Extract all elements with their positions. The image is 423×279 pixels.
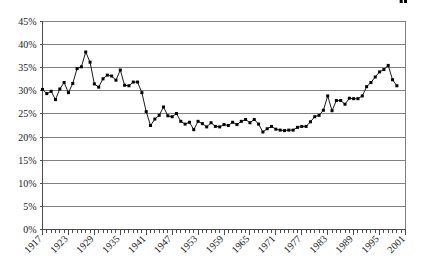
data-point-marker <box>223 123 226 126</box>
data-point-marker <box>356 97 359 100</box>
y-axis-tick-label: 5% <box>23 201 36 212</box>
data-point-marker <box>110 75 113 78</box>
data-point-marker <box>266 127 269 130</box>
data-point-marker <box>162 106 165 109</box>
data-point-marker <box>287 129 290 132</box>
y-axis-tick-label: 40% <box>18 39 36 50</box>
data-point-marker <box>80 65 83 68</box>
data-point-marker <box>326 94 329 97</box>
data-point-marker <box>140 91 143 94</box>
data-point-marker <box>67 91 70 94</box>
data-point-marker <box>292 129 295 132</box>
data-point-marker <box>76 67 79 70</box>
data-point-marker <box>197 120 200 123</box>
y-axis-tick-label: 30% <box>18 85 36 96</box>
y-axis-tick-label: 35% <box>18 62 36 73</box>
data-point-marker <box>41 88 44 91</box>
data-point-marker <box>279 129 282 132</box>
data-point-marker <box>335 99 338 102</box>
data-point-marker <box>387 64 390 67</box>
data-point-marker <box>261 130 264 133</box>
data-point-marker <box>313 115 316 118</box>
data-point-marker <box>97 86 100 89</box>
data-point-marker <box>374 75 377 78</box>
data-point-marker <box>378 70 381 73</box>
data-point-marker <box>192 128 195 131</box>
data-point-marker <box>123 84 126 87</box>
data-point-marker <box>45 92 48 95</box>
data-point-marker <box>175 112 178 115</box>
data-point-marker <box>210 121 213 124</box>
chart-container: 0%5%10%15%20%25%30%35%40%45% 19171923192… <box>0 0 423 279</box>
data-point-marker <box>283 129 286 132</box>
data-point-marker <box>365 85 368 88</box>
data-point-marker <box>171 115 174 118</box>
data-point-marker <box>395 84 398 87</box>
data-point-marker <box>166 114 169 117</box>
data-point-marker <box>352 97 355 100</box>
data-point-marker <box>58 87 61 90</box>
data-point-marker <box>400 0 403 3</box>
data-point-marker <box>257 123 260 126</box>
data-point-marker <box>240 120 243 123</box>
data-point-marker <box>63 81 66 84</box>
data-point-marker <box>274 128 277 131</box>
data-point-marker <box>201 122 204 125</box>
data-point-marker <box>218 125 221 128</box>
data-point-marker <box>136 81 139 84</box>
data-point-marker <box>179 120 182 123</box>
data-point-marker <box>391 78 394 81</box>
data-point-marker <box>244 118 247 121</box>
data-point-marker <box>296 126 299 129</box>
data-point-marker <box>344 103 347 106</box>
data-point-marker <box>119 69 122 72</box>
data-point-marker <box>382 68 385 71</box>
data-point-marker <box>248 121 251 124</box>
data-point-marker <box>322 109 325 112</box>
y-axis-tick-label: 20% <box>18 132 36 143</box>
data-point-marker <box>71 82 74 85</box>
data-point-marker <box>153 118 156 121</box>
data-point-marker <box>309 120 312 123</box>
data-point-marker <box>89 61 92 64</box>
y-axis-tick-label: 45% <box>18 16 36 27</box>
data-point-marker <box>84 51 87 54</box>
data-point-marker <box>235 123 238 126</box>
data-point-marker <box>184 123 187 126</box>
data-point-marker <box>339 99 342 102</box>
data-point-marker <box>348 97 351 100</box>
data-point-marker <box>106 74 109 77</box>
y-axis-tick-label: 25% <box>18 108 36 119</box>
y-axis-tick-label: 0% <box>23 224 36 235</box>
data-point-marker <box>145 110 148 113</box>
data-point-marker <box>318 114 321 117</box>
data-point-marker <box>214 125 217 128</box>
data-point-marker <box>404 0 407 3</box>
data-point-marker <box>305 125 308 128</box>
data-point-marker <box>93 82 96 85</box>
data-point-marker <box>158 114 161 117</box>
data-point-marker <box>127 84 130 87</box>
data-point-marker <box>331 109 334 112</box>
data-point-marker <box>114 79 117 82</box>
data-point-marker <box>253 118 256 121</box>
data-point-marker <box>102 77 105 80</box>
data-point-marker <box>361 94 364 97</box>
data-point-marker <box>227 124 230 127</box>
data-point-marker <box>54 98 57 101</box>
data-point-marker <box>149 124 152 127</box>
data-point-marker <box>50 90 53 93</box>
line-chart: 0%5%10%15%20%25%30%35%40%45% 19171923192… <box>0 0 423 279</box>
data-point-marker <box>369 81 372 84</box>
data-point-marker <box>205 125 208 128</box>
data-point-marker <box>132 81 135 84</box>
data-point-marker <box>270 125 273 128</box>
y-axis-tick-label: 10% <box>18 178 36 189</box>
data-point-marker <box>231 121 234 124</box>
data-point-marker <box>300 125 303 128</box>
data-point-marker <box>188 121 191 124</box>
y-axis-tick-label: 15% <box>18 155 36 166</box>
